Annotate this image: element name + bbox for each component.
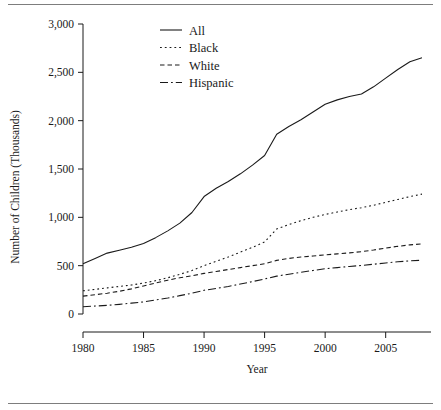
y-tick-label: 1,000 — [48, 211, 74, 224]
chart-legend: AllBlackWhiteHispanic — [160, 24, 234, 91]
legend-label-black: Black — [189, 41, 219, 55]
y-tick-label: 2,500 — [48, 66, 74, 79]
series-line-white — [83, 244, 422, 296]
x-tick-label: 2000 — [314, 342, 337, 354]
bottom-divider-rule — [8, 403, 433, 404]
x-axis-title: Year — [246, 363, 267, 375]
legend-label-hispanic: Hispanic — [189, 76, 234, 90]
x-tick-label: 1985 — [132, 342, 155, 354]
top-divider-rule — [8, 4, 433, 5]
y-axis-title: Number of Children (Thousands) — [9, 110, 22, 264]
legend-label-all: All — [189, 24, 206, 38]
y-axis-tick-marks — [78, 24, 83, 314]
series-line-hispanic — [83, 260, 422, 307]
y-tick-label: 0 — [68, 308, 74, 320]
y-tick-label: 1,500 — [48, 163, 74, 176]
figure-container: 05001,0001,5002,0002,5003,000 1980198519… — [0, 0, 441, 410]
x-axis-tick-marks — [83, 332, 386, 338]
series-line-black — [83, 194, 422, 291]
x-tick-label: 1995 — [253, 342, 276, 354]
x-tick-label: 1980 — [72, 342, 95, 354]
line-chart: 05001,0001,5002,0002,5003,000 1980198519… — [0, 0, 441, 410]
legend-label-white: White — [189, 59, 220, 73]
y-tick-label: 2,000 — [48, 115, 74, 128]
y-tick-label: 500 — [57, 260, 75, 272]
x-tick-label: 2005 — [374, 342, 397, 354]
x-axis-tick-labels: 198019851990199520002005 — [72, 342, 398, 354]
series-line-all — [83, 58, 422, 264]
data-series-group — [83, 58, 422, 307]
x-tick-label: 1990 — [193, 342, 216, 354]
y-tick-label: 3,000 — [48, 18, 74, 31]
y-axis-tick-labels: 05001,0001,5002,0002,5003,000 — [48, 18, 74, 320]
